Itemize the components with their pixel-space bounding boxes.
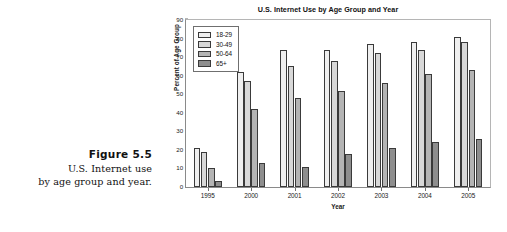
chart: U.S. Internet Use by Age Group and Year … xyxy=(152,2,504,230)
bar-group xyxy=(324,20,352,187)
bar xyxy=(411,42,418,187)
bar-group xyxy=(237,20,265,187)
x-axis-tick-label: 1995 xyxy=(201,192,215,199)
legend-label: 65+ xyxy=(216,60,227,67)
x-axis-tick-mark xyxy=(208,188,209,191)
bar-group xyxy=(411,20,439,187)
bar xyxy=(251,109,258,187)
x-axis-tick-mark xyxy=(295,188,296,191)
bar xyxy=(418,50,425,187)
bar xyxy=(295,98,302,187)
chart-legend: 18-2930-4950-6465+ xyxy=(193,26,239,72)
x-axis-tick-mark xyxy=(251,188,252,191)
legend-item: 50-64 xyxy=(198,49,232,59)
legend-swatch-icon xyxy=(198,41,211,48)
legend-item: 18-29 xyxy=(198,30,232,40)
x-axis-title: Year xyxy=(185,203,491,210)
bar-group xyxy=(454,20,482,187)
bar xyxy=(194,148,201,187)
bar xyxy=(338,91,345,187)
bar xyxy=(324,50,331,187)
y-axis-tick-label: 50 xyxy=(169,90,183,97)
y-axis-tick-label: 30 xyxy=(169,127,183,134)
y-axis-tick-label: 40 xyxy=(169,108,183,115)
legend-label: 30-49 xyxy=(216,41,232,48)
bar xyxy=(476,139,483,187)
y-axis-tick-label: 10 xyxy=(169,164,183,171)
bar xyxy=(375,53,382,187)
x-axis-tick-label: 2005 xyxy=(461,192,475,199)
bar xyxy=(201,152,208,187)
bar xyxy=(331,61,338,187)
bar xyxy=(367,44,374,187)
chart-title: U.S. Internet Use by Age Group and Year xyxy=(152,5,504,14)
bar-group xyxy=(367,20,395,187)
bar xyxy=(215,181,222,187)
y-axis-tick-label: 0 xyxy=(169,183,183,190)
bar xyxy=(302,167,309,187)
bar xyxy=(469,70,476,187)
bar xyxy=(288,66,295,187)
figure-caption: Figure 5.5 U.S. Internet use by age grou… xyxy=(12,148,152,188)
bar xyxy=(280,50,287,187)
x-axis-tick-mark xyxy=(425,188,426,191)
x-axis-tick-mark xyxy=(381,188,382,191)
figure-number: Figure 5.5 xyxy=(12,148,152,161)
bar xyxy=(389,148,396,187)
figure-caption-line-2: by age group and year. xyxy=(12,176,152,188)
legend-swatch-icon xyxy=(198,60,211,67)
y-axis-tick-label: 90 xyxy=(169,16,183,23)
legend-label: 18-29 xyxy=(216,31,232,38)
x-axis-tick-mark xyxy=(338,188,339,191)
figure-caption-line-1: U.S. Internet use xyxy=(12,163,152,175)
bar xyxy=(461,42,468,187)
x-axis-tick-mark xyxy=(468,188,469,191)
x-axis-tick-label: 2001 xyxy=(288,192,302,199)
legend-swatch-icon xyxy=(198,32,211,39)
bar xyxy=(454,37,461,187)
y-axis-tick-label: 20 xyxy=(169,145,183,152)
bar xyxy=(345,154,352,187)
x-axis-tick-label: 2004 xyxy=(418,192,432,199)
y-axis-tick-label: 80 xyxy=(169,34,183,41)
x-axis-tick-label: 2003 xyxy=(375,192,389,199)
bar xyxy=(432,142,439,187)
bar xyxy=(425,74,432,187)
bar xyxy=(237,72,244,187)
x-axis-tick-label: 2000 xyxy=(244,192,258,199)
y-axis-tick-label: 60 xyxy=(169,71,183,78)
bar-group xyxy=(280,20,308,187)
y-axis-tick-labels: 0102030405060708090 xyxy=(167,19,183,188)
legend-swatch-icon xyxy=(198,51,211,58)
legend-label: 50-64 xyxy=(216,50,232,57)
bar xyxy=(244,81,251,187)
figure-page: Figure 5.5 U.S. Internet use by age grou… xyxy=(0,0,507,232)
bar xyxy=(208,168,215,187)
bar xyxy=(382,83,389,187)
y-axis-tick-label: 70 xyxy=(169,53,183,60)
legend-item: 65+ xyxy=(198,59,232,69)
bar xyxy=(259,163,266,187)
x-axis-tick-label: 2002 xyxy=(331,192,345,199)
legend-item: 30-49 xyxy=(198,40,232,50)
